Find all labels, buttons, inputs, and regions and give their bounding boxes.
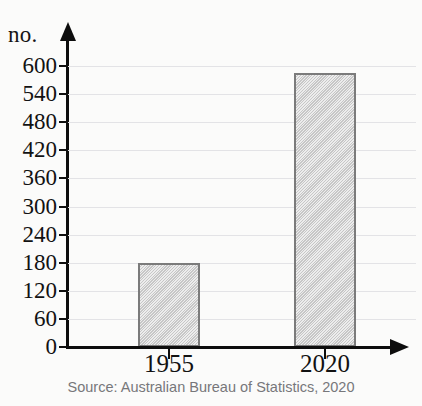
y-axis-arrow-icon (60, 22, 76, 41)
x-axis-tick-label: 2020 (300, 350, 350, 378)
gridline (66, 319, 416, 320)
source-note: Source: Australian Bureau of Statistics,… (0, 379, 422, 395)
x-axis-line (66, 346, 392, 349)
gridline (66, 263, 416, 264)
gridline (66, 207, 416, 208)
y-axis-tick-mark (59, 206, 68, 208)
y-axis-tick-label: 420 (23, 137, 58, 163)
y-axis-tick-mark (59, 262, 68, 264)
y-axis-tick-labels: 060120180240300360420480540600 (0, 0, 57, 406)
gridline (66, 94, 416, 95)
gridline (66, 122, 416, 123)
y-axis-tick-label: 0 (46, 334, 58, 360)
y-axis-tick-label: 240 (23, 222, 58, 248)
y-axis-tick-mark (59, 318, 68, 320)
y-axis-tick-mark (59, 290, 68, 292)
gridline (66, 178, 416, 179)
y-axis-tick-mark (59, 149, 68, 151)
y-axis-tick-mark (59, 93, 68, 95)
y-axis-tick-label: 600 (23, 53, 58, 79)
x-axis-tick-label: 1955 (144, 350, 194, 378)
bar-chart: no. 060120180240300360420480540600 19552… (0, 0, 422, 406)
gridline (66, 66, 416, 67)
bar (294, 73, 356, 347)
y-axis-tick-label: 120 (23, 278, 58, 304)
y-axis-tick-mark (59, 177, 68, 179)
y-axis-tick-mark (59, 121, 68, 123)
y-axis-tick-label: 180 (23, 250, 58, 276)
y-axis-tick-label: 300 (23, 194, 58, 220)
gridline (66, 291, 416, 292)
bar (138, 263, 200, 347)
y-axis-line (66, 38, 69, 348)
y-axis-tick-label: 540 (23, 81, 58, 107)
x-axis-arrow-icon (390, 339, 409, 355)
y-axis-tick-mark (59, 234, 68, 236)
y-axis-tick-label: 480 (23, 109, 58, 135)
y-axis-tick-label: 60 (34, 306, 57, 332)
gridline (66, 235, 416, 236)
y-axis-tick-mark (59, 65, 68, 67)
y-axis-tick-label: 360 (23, 165, 58, 191)
gridline (66, 150, 416, 151)
